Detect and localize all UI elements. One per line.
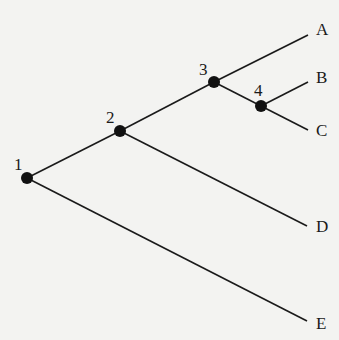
edge-3-A xyxy=(214,35,308,82)
node-label-1: 1 xyxy=(14,155,23,174)
edge-4-B xyxy=(261,82,308,106)
edge-1-E xyxy=(27,178,307,321)
tree-labels: 1234ABCDE xyxy=(14,20,329,333)
leaf-label-E: E xyxy=(316,314,326,333)
edge-4-C xyxy=(261,106,308,130)
edge-2-D xyxy=(120,131,307,226)
tree-canvas: 1234ABCDE xyxy=(0,0,339,340)
leaf-label-A: A xyxy=(316,20,329,39)
node-label-2: 2 xyxy=(106,108,115,127)
leaf-label-B: B xyxy=(316,68,327,87)
node-2 xyxy=(114,125,126,137)
leaf-label-C: C xyxy=(316,121,327,140)
edge-1-2 xyxy=(27,131,120,178)
node-label-3: 3 xyxy=(199,60,208,79)
node-3 xyxy=(208,76,220,88)
tree-diagram: 1234ABCDE xyxy=(0,0,339,340)
tree-nodes xyxy=(21,76,267,184)
node-label-4: 4 xyxy=(254,81,263,100)
node-1 xyxy=(21,172,33,184)
edge-2-3 xyxy=(120,82,214,131)
leaf-label-D: D xyxy=(316,217,328,236)
node-4 xyxy=(255,100,267,112)
tree-edges xyxy=(27,35,308,321)
